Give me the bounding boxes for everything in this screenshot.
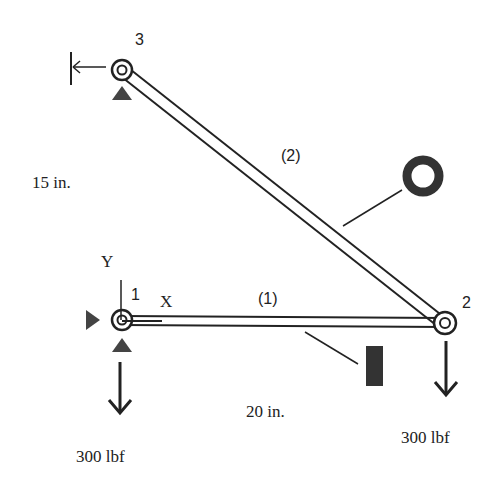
- support-triangle-icon: [112, 86, 132, 100]
- tube-cross-section-icon: [343, 160, 439, 226]
- element-2-label: (2): [281, 147, 301, 165]
- horizontal-dimension-label: 20 in.: [246, 402, 285, 422]
- node-1-label: 1: [131, 286, 140, 304]
- x-axis-label: X: [160, 292, 172, 312]
- horizontal-restraint-icon: [71, 52, 106, 85]
- vertical-dimension-label: 15 in.: [32, 173, 71, 193]
- node-2: [434, 312, 456, 334]
- node-2-label: 2: [462, 294, 471, 312]
- support-triangle-left-icon: [86, 310, 100, 330]
- element-1-label: (1): [258, 290, 278, 308]
- y-axis-label: Y: [101, 252, 113, 272]
- node-3: [112, 60, 132, 80]
- load-label-node-2: 300 lbf: [401, 428, 450, 448]
- bar-cross-section-icon: [305, 332, 383, 386]
- truss-diagram: 3 1 2 (2) (1) Y X 15 in. 20 in. 300 lbf …: [0, 0, 501, 492]
- load-label-node-1: 300 lbf: [76, 447, 125, 467]
- node-3-label: 3: [135, 31, 144, 49]
- load-arrow-node-1-icon: [109, 362, 131, 413]
- member-1: [122, 316, 445, 327]
- member-2: [118, 66, 449, 329]
- load-arrow-node-2-icon: [435, 341, 457, 395]
- support-triangle-bottom-icon: [112, 338, 132, 352]
